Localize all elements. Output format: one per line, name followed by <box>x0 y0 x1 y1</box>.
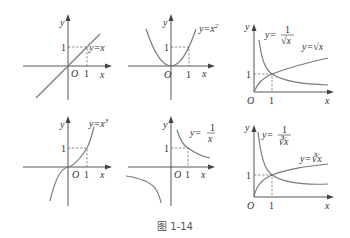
svg-text:x: x <box>200 169 206 180</box>
svg-text:O: O <box>247 200 254 211</box>
svg-text:O: O <box>72 169 79 180</box>
svg-text:1: 1 <box>186 69 191 80</box>
svg-text:1: 1 <box>282 124 287 135</box>
svg-text:x: x <box>201 68 207 79</box>
svg-text:y=x2: y=x2 <box>198 22 219 34</box>
svg-text:1: 1 <box>285 24 290 35</box>
svg-text:1: 1 <box>269 95 274 106</box>
svg-text:x: x <box>99 69 105 80</box>
svg-text:y=: y= <box>264 29 276 40</box>
svg-text:x: x <box>324 95 330 106</box>
panel-y-equals-x-squared: y 1 O 1 x y=x2 <box>128 14 219 100</box>
svg-text:y: y <box>59 17 65 28</box>
svg-text:1: 1 <box>164 42 169 53</box>
svg-text:x: x <box>324 200 330 211</box>
svg-text:1: 1 <box>84 68 89 79</box>
svg-text:1: 1 <box>61 143 66 154</box>
svg-text:1: 1 <box>84 169 89 180</box>
figure-caption: 图 1-14 <box>157 221 193 232</box>
curve-sqrt <box>254 58 328 92</box>
svg-text:∛x: ∛x <box>278 135 289 147</box>
svg-text:O: O <box>71 68 78 79</box>
svg-text:y=: y= <box>189 127 201 138</box>
curve-inv-x-neg <box>126 176 161 203</box>
panel-y-equals-1-over-x: y 1 O 1 x y= 1 x <box>126 116 215 206</box>
svg-text:√x: √x <box>281 35 291 46</box>
curve-y-x3 <box>50 127 94 201</box>
svg-text:1: 1 <box>185 169 190 180</box>
svg-text:y=√x: y=√x <box>301 41 324 52</box>
svg-text:1: 1 <box>269 200 274 211</box>
svg-text:y=: y= <box>261 129 273 140</box>
svg-text:y: y <box>244 122 250 133</box>
panel-sqrt: y 1 O 1 x y= 1 √x y=√x <box>244 21 334 106</box>
svg-text:x: x <box>207 133 213 144</box>
svg-text:y: y <box>162 17 168 28</box>
svg-text:x: x <box>99 169 105 180</box>
svg-text:1: 1 <box>164 143 169 154</box>
svg-text:O: O <box>174 169 181 180</box>
svg-text:y=x3: y=x3 <box>88 117 109 129</box>
svg-text:O: O <box>247 95 254 106</box>
svg-text:y=∛x: y=∛x <box>299 152 322 164</box>
svg-text:1: 1 <box>246 170 251 181</box>
svg-text:1: 1 <box>61 42 66 53</box>
svg-text:1: 1 <box>210 122 215 133</box>
curve-cbrt <box>254 164 328 197</box>
svg-text:1: 1 <box>246 69 251 80</box>
panel-y-equals-x-cubed: y 1 O 1 x y=x3 <box>23 116 112 206</box>
svg-text:O: O <box>164 69 171 80</box>
power-function-figure: y 1 O 1 x y=x y 1 O 1 x y=x2 y 1 O 1 x y… <box>0 0 350 238</box>
svg-text:y: y <box>244 21 250 32</box>
svg-text:y: y <box>59 119 65 130</box>
panel-cbrt: y 1 O 1 x y= 1 ∛x y=∛x <box>244 122 334 211</box>
svg-text:y: y <box>162 119 168 130</box>
svg-text:y=x: y=x <box>88 42 105 53</box>
panel-y-equals-x: y 1 O 1 x y=x <box>23 14 112 100</box>
